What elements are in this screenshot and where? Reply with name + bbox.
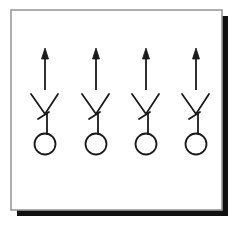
screenshot-canvas: Framed drawing of four identical arrow-a…	[0, 0, 244, 230]
artboard	[0, 0, 244, 230]
